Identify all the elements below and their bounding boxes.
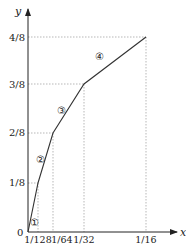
segment-label-2: ②: [36, 154, 45, 165]
x-tick-label: 1/64: [51, 234, 72, 245]
piecewise-linear-chart: x y 0 1/8 2/8 3/8 4/8 1/128 1/64 1/32 1/…: [0, 0, 186, 245]
segment-label-1: ①: [30, 217, 39, 228]
guide-lines: [28, 37, 146, 232]
y-tick-label: 1/8: [9, 177, 25, 188]
segment-label-4: ④: [95, 51, 104, 62]
y-tick-label: 4/8: [9, 32, 25, 43]
origin-label: 0: [17, 227, 23, 238]
y-axis-label: y: [14, 5, 22, 18]
x-tick-label: 1/128: [24, 234, 51, 245]
x-tick-label: 1/16: [135, 234, 156, 245]
segment-label-3: ③: [57, 105, 66, 116]
x-axis-label: x: [180, 226, 186, 239]
y-tick-label: 3/8: [9, 79, 25, 90]
x-tick-label: 1/32: [73, 234, 94, 245]
piecewise-line: [28, 37, 146, 232]
y-tick-label: 2/8: [9, 127, 25, 138]
